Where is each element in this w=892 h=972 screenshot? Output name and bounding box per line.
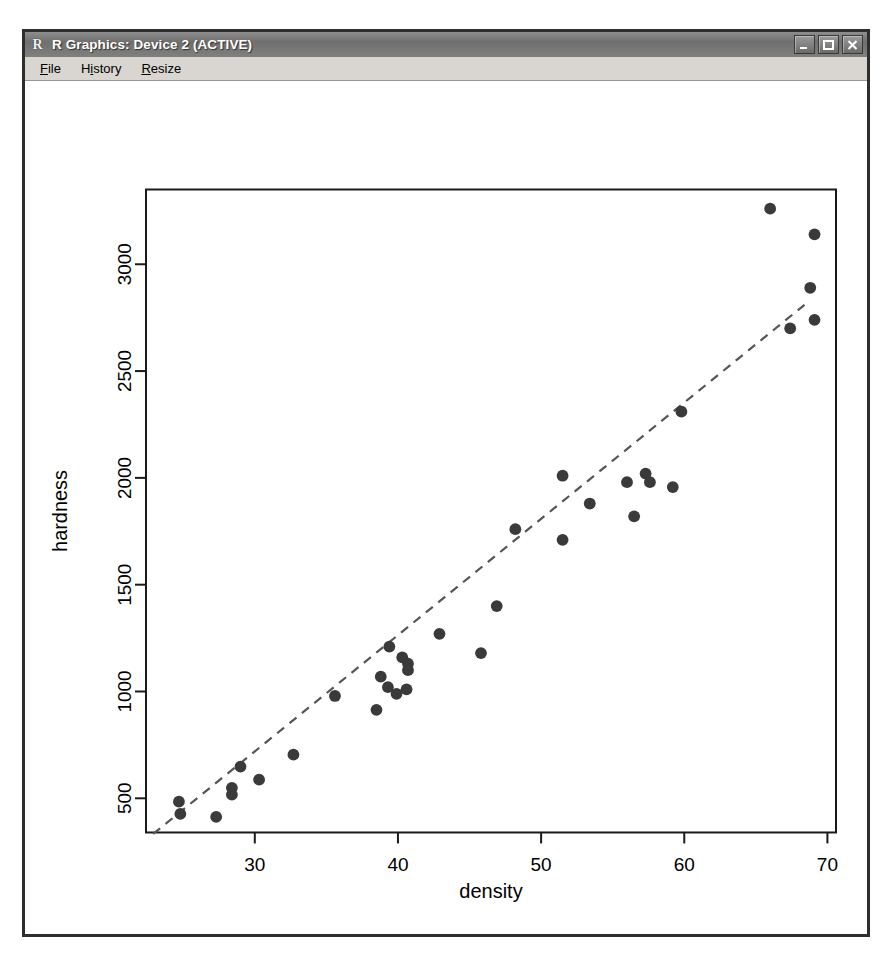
- x-axis-label: density: [459, 880, 522, 902]
- screen: R R Graphics: Device 2 (ACTIVE): [0, 0, 892, 972]
- y-tick-label: 500: [114, 783, 135, 815]
- data-point: [804, 282, 816, 294]
- x-tick-label: 70: [817, 854, 838, 875]
- data-point: [667, 481, 679, 493]
- data-point: [375, 671, 387, 683]
- data-point: [809, 314, 821, 326]
- data-point: [434, 628, 446, 640]
- titlebar-left-group: R R Graphics: Device 2 (ACTIVE): [29, 36, 252, 53]
- data-point: [401, 683, 413, 695]
- data-point: [809, 228, 821, 240]
- y-tick-label: 2000: [114, 457, 135, 499]
- window-titlebar[interactable]: R R Graphics: Device 2 (ACTIVE): [25, 32, 867, 57]
- data-point: [557, 470, 569, 482]
- data-point: [557, 534, 569, 546]
- graphics-canvas: 3040506070 50010001500200025003000 densi…: [25, 81, 867, 934]
- data-point: [391, 688, 403, 700]
- data-point: [402, 658, 414, 670]
- data-point: [235, 761, 247, 773]
- y-tick-label: 2500: [114, 350, 135, 392]
- menu-item-file[interactable]: File: [31, 59, 70, 79]
- r-graphics-window: R R Graphics: Device 2 (ACTIVE): [22, 29, 870, 937]
- data-point: [584, 498, 596, 510]
- maximize-icon: [822, 39, 835, 51]
- data-point: [628, 510, 640, 522]
- data-point: [174, 808, 186, 820]
- menubar: File History Resize: [25, 57, 867, 81]
- data-point: [329, 690, 341, 702]
- data-point: [475, 647, 487, 659]
- data-point: [383, 641, 395, 653]
- scatter-plot: 3040506070 50010001500200025003000 densi…: [25, 82, 867, 934]
- r-logo-icon: R: [29, 36, 46, 53]
- close-button[interactable]: [842, 35, 863, 54]
- data-point: [226, 782, 238, 794]
- data-point: [288, 749, 300, 761]
- menu-item-history-pre: H: [81, 61, 90, 76]
- menu-item-history[interactable]: History: [72, 59, 130, 79]
- data-point: [764, 203, 776, 215]
- data-point: [371, 704, 383, 716]
- menu-item-resize[interactable]: Resize: [132, 59, 190, 79]
- window-controls: [794, 35, 865, 54]
- x-tick-label: 40: [387, 854, 408, 875]
- maximize-button[interactable]: [818, 35, 839, 54]
- data-point: [253, 774, 265, 786]
- data-point: [644, 476, 656, 488]
- x-tick-label: 60: [674, 854, 695, 875]
- data-point: [675, 406, 687, 418]
- close-icon: [846, 39, 859, 51]
- data-point: [509, 523, 521, 535]
- minimize-icon: [798, 39, 811, 51]
- menu-item-resize-label: esize: [151, 61, 181, 76]
- data-point: [173, 796, 185, 808]
- menu-item-file-label: ile: [48, 61, 61, 76]
- y-axis-label: hardness: [49, 470, 71, 552]
- data-point: [784, 322, 796, 334]
- y-tick-label: 3000: [114, 243, 135, 285]
- x-tick-label: 30: [244, 854, 265, 875]
- minimize-button[interactable]: [794, 35, 815, 54]
- data-point: [210, 811, 222, 823]
- y-tick-label: 1500: [114, 564, 135, 606]
- x-tick-label: 50: [531, 854, 552, 875]
- data-point: [621, 476, 633, 488]
- window-title: R Graphics: Device 2 (ACTIVE): [52, 37, 252, 52]
- data-point: [491, 600, 503, 612]
- y-tick-label: 1000: [114, 670, 135, 712]
- plot-background: [25, 82, 867, 934]
- menu-item-history-post: story: [93, 61, 121, 76]
